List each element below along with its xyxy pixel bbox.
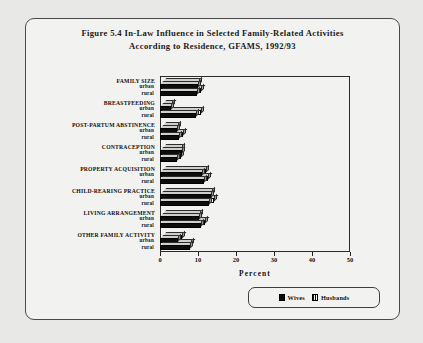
subgroup-label-urban: urban [139,215,154,221]
subgroup-label-urban: urban [139,149,154,155]
bar-front-face [160,223,201,228]
x-tick-mark [198,252,199,256]
bar-front-face [160,91,197,96]
x-tick-label: 20 [233,256,239,263]
subgroup-label-rural: rural [141,134,154,140]
bar-wives-rural [160,223,201,228]
legend-item-husbands: Husbands [312,294,350,301]
x-tick-mark [160,252,161,256]
bar-wives-rural [160,135,179,140]
x-tick-mark [312,252,313,256]
bar-wives-rural [160,91,197,96]
bar-front-face [160,157,177,162]
subgroup-label-urban: urban [139,127,154,133]
legend-item-wives: Wives [279,294,305,301]
x-tick-label: 40 [309,256,315,263]
bar-wives-rural [160,157,177,162]
subgroup-label-urban: urban [139,105,154,111]
legend-label-husbands: Husbands [321,294,350,301]
subgroup-label-urban: urban [139,171,154,177]
x-axis-title: Percent [160,269,350,278]
bar-front-face [160,179,204,184]
subgroup-label-rural: rural [141,90,154,96]
bar-front-face [160,201,209,206]
x-tick-mark [236,252,237,256]
bar-front-face [160,113,196,118]
x-tick-mark [274,252,275,256]
bar-wives-rural [160,113,196,118]
x-tick-label: 50 [347,256,353,263]
bar-wives-rural [160,179,204,184]
subgroup-label-rural: rural [141,244,154,250]
bar-wives-rural [160,245,190,250]
subgroup-label-rural: rural [141,156,154,162]
x-tick-label: 30 [271,256,277,263]
subgroup-label-urban: urban [139,193,154,199]
plot-area: FAMILY SIZEurbanruralBREASTFEEDINGurbanr… [26,19,401,321]
x-tick-label: 10 [195,256,201,263]
subgroup-label-rural: rural [141,112,154,118]
subgroup-label-rural: rural [141,178,154,184]
legend-label-wives: Wives [288,294,305,301]
figure-card: Figure 5.4 In-Law Influence in Selected … [25,18,400,320]
wives-swatch-icon [279,294,286,301]
subgroup-label-urban: urban [139,83,154,89]
subgroup-label-rural: rural [141,222,154,228]
husbands-swatch-icon [312,294,319,301]
bar-front-face [160,135,179,140]
subgroup-label-urban: urban [139,237,154,243]
bar-wives-rural [160,201,209,206]
x-tick-label: 0 [158,256,161,263]
legend: Wives Husbands [248,287,380,308]
x-tick-mark [350,252,351,256]
bar-front-face [160,245,190,250]
subgroup-label-rural: rural [141,200,154,206]
